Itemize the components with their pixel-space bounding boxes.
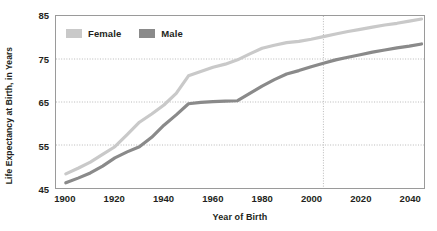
x-axis-tick-label: 2000: [301, 193, 322, 204]
x-axis-tick-labels: 19001920194019601980200020202040: [0, 193, 437, 207]
x-axis-tick-label: 2040: [400, 193, 421, 204]
legend-swatch-icon: [66, 29, 82, 38]
plot-area: [55, 15, 425, 189]
series-line-male: [66, 44, 422, 183]
x-axis-tick-label: 1980: [252, 193, 273, 204]
legend-entry: Female: [66, 28, 121, 39]
x-axis-tick-label: 1900: [54, 193, 75, 204]
y-axis-tick-label: 65: [22, 97, 49, 108]
x-axis-tick-label: 1940: [153, 193, 174, 204]
plot-svg: [56, 16, 424, 188]
y-axis-tick-label: 55: [22, 140, 49, 151]
y-axis-tick-label: 75: [22, 53, 49, 64]
x-axis-tick-label: 2020: [350, 193, 371, 204]
legend-swatch-icon: [139, 29, 155, 38]
legend-label: Female: [88, 28, 121, 39]
legend-label: Male: [161, 28, 183, 39]
x-axis-tick-label: 1920: [104, 193, 125, 204]
x-axis-title: Year of Birth: [55, 212, 425, 222]
x-axis-tick-label: 1960: [202, 193, 223, 204]
chart-figure: Life Expectancy at Birth, in Years 45556…: [0, 0, 437, 231]
y-axis-tick-label: 85: [22, 10, 49, 21]
chart-legend: FemaleMale: [66, 28, 183, 39]
legend-entry: Male: [139, 28, 183, 39]
